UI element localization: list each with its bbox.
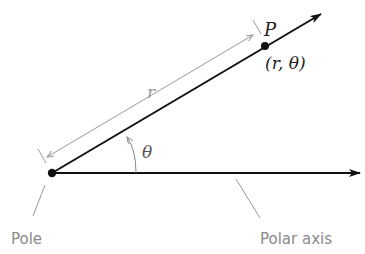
pole-point [48,169,56,177]
point-label: P [263,19,277,40]
coords-label: (r, θ) [265,53,306,73]
pole-leader-line [33,185,45,216]
angle-label: θ [142,142,152,162]
polar-axis-label: Polar axis [260,230,332,248]
point-p [261,42,269,50]
polar-diagram: P (r, θ) r θ Pole Polar axis [0,0,365,254]
radius-label: r [147,82,156,102]
dim-tick-p [253,20,261,34]
angle-arc [127,137,136,173]
pole-label: Pole [11,230,42,248]
axis-leader-line [236,179,260,218]
ray-line [52,14,321,173]
dim-tick-pole [38,149,46,163]
